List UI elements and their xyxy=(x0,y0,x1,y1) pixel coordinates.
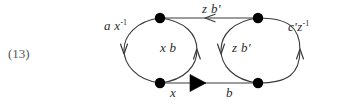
edge-label-top-left-sup: -1 xyxy=(120,18,127,27)
edge-label-top-middle-base: z b' xyxy=(202,1,221,16)
edge-label-top-left: a x-1 xyxy=(104,18,127,34)
edge-label-top-right-sup: -1 xyxy=(303,19,310,28)
arrowhead-bottom-solid-right xyxy=(190,75,206,92)
edge-label-inner-right-base: z b' xyxy=(232,40,251,55)
edge-label-inner-left-base: x b xyxy=(160,40,176,55)
equation-figure: (13) a x-1 xyxy=(0,0,346,106)
edge-label-top-right-base: c'z xyxy=(288,19,303,34)
edge-label-bottom-right: b xyxy=(226,85,233,101)
edge-label-bottom-right-base: b xyxy=(226,85,233,100)
edge-label-top-right: c'z-1 xyxy=(288,19,309,35)
edge-outer-left-arc xyxy=(124,18,160,83)
edge-label-bottom-left-base: x xyxy=(170,85,176,100)
node-bottom-left xyxy=(155,78,165,88)
edge-label-top-middle: z b' xyxy=(202,1,221,17)
edge-label-bottom-left: x xyxy=(170,85,176,101)
node-top-left xyxy=(155,13,165,23)
edge-label-top-left-base: a x xyxy=(104,18,120,33)
node-top-right xyxy=(253,13,263,23)
node-bottom-right xyxy=(253,78,263,88)
edge-label-inner-right: z b' xyxy=(232,40,251,56)
edge-label-inner-left: x b xyxy=(160,40,176,56)
